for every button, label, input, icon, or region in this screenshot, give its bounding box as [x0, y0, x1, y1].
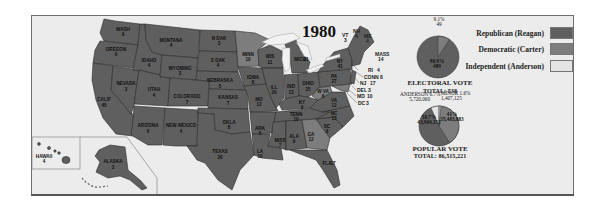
svg-text:12: 12 — [308, 137, 314, 142]
hawaii-inset-box — [32, 137, 80, 169]
state-alaska — [95, 145, 147, 190]
svg-text:4: 4 — [377, 67, 380, 73]
legend-swatch-democratic — [550, 43, 573, 55]
legend-item-democratic: Democratic (Carter) — [478, 43, 573, 55]
state-ny — [318, 48, 352, 72]
popular-vote-total: TOTAL: 86,515,221 — [400, 153, 480, 159]
svg-text:10: 10 — [245, 57, 251, 62]
state-fla — [290, 150, 340, 188]
svg-text:3: 3 — [179, 71, 182, 76]
svg-text:MD: MD — [357, 93, 365, 99]
svg-text:OHIO: OHIO — [302, 81, 314, 86]
svg-text:25: 25 — [305, 87, 311, 92]
svg-text:4: 4 — [170, 43, 173, 48]
svg-text:4: 4 — [153, 93, 156, 98]
svg-text:NEW MEXICO: NEW MEXICO — [166, 123, 197, 128]
svg-text:4: 4 — [43, 159, 46, 164]
svg-text:UTAH: UTAH — [148, 87, 161, 92]
svg-text:27: 27 — [331, 79, 337, 84]
svg-text:17: 17 — [330, 161, 336, 166]
svg-text:NEBRASKA: NEBRASKA — [207, 78, 234, 83]
svg-text:ALASKA: ALASKA — [103, 159, 123, 164]
map-title: 1980 — [302, 22, 336, 42]
electoral-vote-caption: ELECTORAL VOTE — [404, 80, 476, 87]
svg-text:8: 8 — [228, 125, 231, 130]
svg-text:17: 17 — [370, 80, 376, 86]
legend-item-republican: Republican (Reagan) — [476, 27, 573, 39]
state-new-england — [348, 26, 374, 66]
svg-text:RI: RI — [368, 67, 374, 73]
svg-text:COLORADO: COLORADO — [174, 94, 201, 99]
svg-text:7: 7 — [279, 143, 282, 148]
electoral-vote-pie — [417, 36, 459, 78]
svg-text:45: 45 — [101, 103, 107, 108]
legend-swatch-republican — [550, 27, 573, 39]
svg-text:3: 3 — [366, 100, 369, 106]
svg-text:3: 3 — [125, 87, 128, 92]
legend-item-independent: Independent (Anderson) — [465, 60, 573, 72]
electoral-dem-label: 9.1%49 — [429, 17, 449, 28]
popular-minor-label: MINOR 1.6%1,407,125 — [441, 91, 471, 102]
svg-text:6: 6 — [259, 131, 262, 136]
svg-text:41: 41 — [337, 64, 343, 69]
svg-text:9: 9 — [301, 105, 304, 110]
svg-text:12: 12 — [331, 103, 337, 108]
svg-text:9: 9 — [122, 32, 125, 37]
svg-text:7: 7 — [186, 100, 189, 105]
svg-text:8: 8 — [326, 129, 329, 134]
state-colorado — [168, 78, 209, 106]
legend-label: Democratic (Carter) — [478, 45, 544, 54]
svg-text:26: 26 — [217, 155, 223, 160]
svg-text:IND: IND — [287, 84, 296, 89]
svg-text:TEXAS: TEXAS — [212, 149, 227, 154]
svg-text:8: 8 — [380, 74, 383, 80]
popular-dem-label: 41%35,483,883 — [439, 112, 465, 123]
svg-text:ARIZONA: ARIZONA — [138, 123, 160, 128]
svg-text:7: 7 — [227, 101, 230, 106]
svg-text:KANSAS: KANSAS — [218, 95, 237, 100]
svg-text:26: 26 — [271, 90, 277, 95]
svg-text:10: 10 — [293, 117, 299, 122]
svg-text:WIS: WIS — [266, 54, 275, 59]
legend-swatch-independent — [550, 60, 573, 72]
legend-label: Independent (Anderson) — [465, 62, 544, 71]
svg-text:NEVADA: NEVADA — [116, 81, 136, 86]
svg-text:NJ: NJ — [360, 80, 367, 86]
svg-text:4: 4 — [180, 129, 183, 134]
svg-text:6: 6 — [147, 129, 150, 134]
svg-text:4: 4 — [366, 38, 369, 44]
electoral-rep-label: 90.9%489 — [426, 59, 448, 70]
state-wash — [100, 19, 140, 45]
svg-text:6: 6 — [115, 52, 118, 57]
svg-text:5: 5 — [219, 84, 222, 89]
svg-text:CALIF: CALIF — [97, 97, 111, 102]
state-nj — [350, 70, 356, 84]
svg-text:4: 4 — [217, 63, 220, 68]
legend-label: Republican (Reagan) — [476, 29, 544, 38]
frame-bottom-rule — [31, 194, 574, 196]
svg-text:12: 12 — [256, 102, 262, 107]
svg-text:9: 9 — [293, 139, 296, 144]
svg-text:14: 14 — [378, 56, 384, 62]
svg-text:3: 3 — [344, 37, 347, 43]
svg-text:21: 21 — [303, 57, 309, 62]
svg-text:11: 11 — [268, 60, 273, 65]
svg-text:DC: DC — [358, 100, 366, 106]
svg-text:3: 3 — [112, 165, 115, 170]
svg-text:10: 10 — [367, 93, 373, 99]
svg-text:13: 13 — [331, 116, 337, 121]
svg-text:4: 4 — [148, 63, 151, 68]
svg-text:10: 10 — [257, 154, 263, 159]
popular-anderson-label: ANDERSON 6.7%5,720,060 — [400, 92, 430, 103]
svg-text:8: 8 — [252, 80, 255, 85]
aleutian-islands — [82, 178, 108, 187]
svg-text:6: 6 — [322, 94, 325, 99]
svg-text:13: 13 — [288, 90, 294, 95]
svg-text:3: 3 — [218, 41, 221, 46]
svg-text:4: 4 — [355, 33, 358, 39]
